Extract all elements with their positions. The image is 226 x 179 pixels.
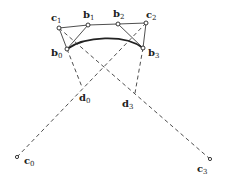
label-b3: b3 <box>148 47 159 60</box>
label-b2: b2 <box>113 8 124 21</box>
point-b2 <box>116 22 120 26</box>
control-polygon-top <box>59 23 146 28</box>
bezier-diagram: c1 b1 b2 c2 b0 b3 d0 d3 c0 c3 <box>0 0 226 179</box>
label-c3: c3 <box>197 163 208 176</box>
point-c2 <box>144 21 148 25</box>
segment-b1-b0 <box>67 25 88 49</box>
label-c0: c0 <box>24 155 35 168</box>
label-d3: d3 <box>122 98 133 111</box>
point-b1 <box>86 23 90 27</box>
segment-c1-b0 <box>59 28 67 49</box>
point-c3 <box>208 157 211 160</box>
segment-c2-b3 <box>143 23 146 48</box>
label-b1: b1 <box>83 9 94 22</box>
label-d0: d0 <box>79 92 90 105</box>
dashed-b3-d3 <box>135 48 143 93</box>
bezier-curve <box>67 38 143 49</box>
label-c2: c2 <box>146 9 157 22</box>
point-c1 <box>57 26 61 30</box>
point-c0 <box>15 155 18 158</box>
label-b0: b0 <box>51 47 62 60</box>
dashed-b0-d0 <box>67 49 82 87</box>
label-c1: c1 <box>51 12 62 25</box>
dashed-c2-c0 <box>17 23 146 157</box>
point-b0 <box>65 47 69 51</box>
point-b3 <box>141 46 145 50</box>
